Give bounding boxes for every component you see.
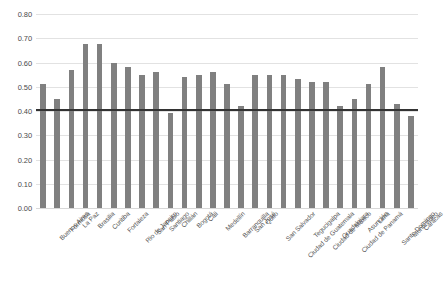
gridline — [36, 63, 418, 64]
y-axis-tick-label: 0.40 — [0, 107, 32, 116]
bar — [394, 104, 400, 208]
bar — [238, 106, 244, 208]
bar — [125, 67, 131, 208]
y-axis-tick-label: 0.50 — [0, 82, 32, 91]
bar — [352, 99, 358, 208]
bar — [196, 75, 202, 208]
bar — [83, 44, 89, 208]
bar — [323, 82, 329, 208]
x-axis-tick-label: San Salvador — [285, 210, 317, 242]
plot-area — [36, 14, 418, 208]
x-axis-labels: Buenos AiresFormosaLa PazBrasiliaCuritib… — [36, 210, 418, 283]
y-axis-tick-label: 0.70 — [0, 34, 32, 43]
bar — [309, 82, 315, 208]
y-axis-tick-label: 0.10 — [0, 179, 32, 188]
bar — [168, 113, 174, 208]
bar — [224, 84, 230, 208]
bar — [40, 84, 46, 208]
bar — [153, 72, 159, 208]
y-axis-tick-label: 0.80 — [0, 10, 32, 19]
bar — [337, 106, 343, 208]
y-axis-tick-label: 0.20 — [0, 155, 32, 164]
bar — [139, 75, 145, 208]
bar — [267, 75, 273, 208]
y-axis-tick-label: 0.00 — [0, 204, 32, 213]
bar — [408, 116, 414, 208]
reference-line — [36, 109, 418, 111]
bar — [366, 84, 372, 208]
bar — [111, 63, 117, 209]
bar — [295, 79, 301, 208]
bar — [380, 67, 386, 208]
gridline — [36, 14, 418, 15]
gridline — [36, 208, 418, 209]
bar — [69, 70, 75, 208]
x-axis-tick-label: Medellín — [224, 210, 246, 232]
bar — [97, 44, 103, 208]
bar — [54, 99, 60, 208]
y-axis-tick-label: 0.30 — [0, 131, 32, 140]
gridline — [36, 38, 418, 39]
bar — [252, 75, 258, 208]
y-axis-tick-label: 0.60 — [0, 58, 32, 67]
bar — [182, 77, 188, 208]
bar — [281, 75, 287, 208]
bar — [210, 72, 216, 208]
